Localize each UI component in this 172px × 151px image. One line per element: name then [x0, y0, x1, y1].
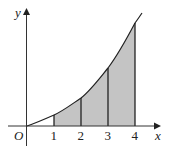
- x-tick-label-3: 3: [105, 128, 112, 143]
- x-tick-label-2: 2: [78, 128, 85, 143]
- shaded-region: [54, 23, 135, 126]
- y-axis-arrow-icon: [23, 8, 30, 15]
- x-tick-label-4: 4: [132, 128, 139, 143]
- area-under-curve-diagram: y x O 1 2 3 4: [0, 0, 172, 151]
- y-axis-label: y: [13, 5, 21, 20]
- x-axis-label: x: [154, 128, 161, 143]
- origin-label: O: [14, 128, 24, 143]
- x-tick-label-1: 1: [51, 128, 58, 143]
